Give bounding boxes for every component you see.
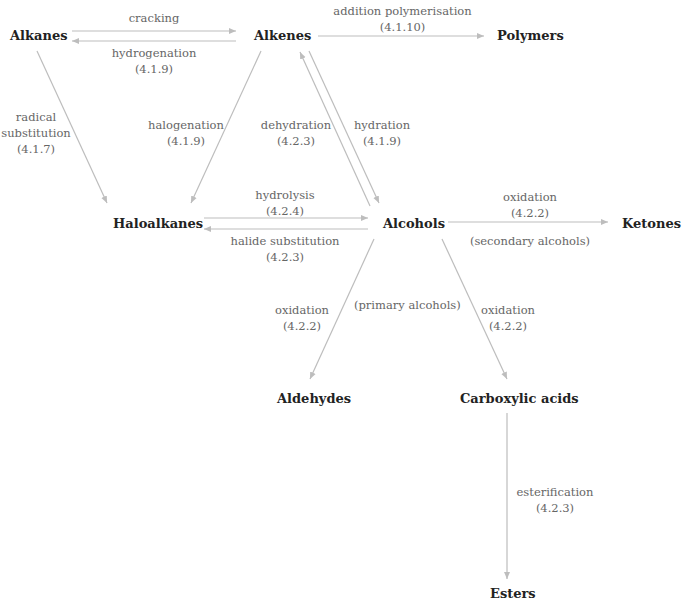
node-alkanes: Alkanes xyxy=(10,28,68,44)
label-halogenation: halogenation (4.1.9) xyxy=(146,117,226,149)
label-oxidation-ketones: oxidation (4.2.2) xyxy=(490,189,570,221)
node-alcohols: Alcohols xyxy=(383,216,445,232)
node-haloalkanes: Haloalkanes xyxy=(113,216,203,232)
node-ketones: Ketones xyxy=(622,216,681,232)
label-primary-alcohols: (primary alcohols) xyxy=(354,297,458,313)
node-esters: Esters xyxy=(490,586,536,602)
label-hydration: hydration (4.1.9) xyxy=(350,117,414,149)
label-secondary-alcohols: (secondary alcohols) xyxy=(465,233,595,249)
node-polymers: Polymers xyxy=(497,28,564,44)
label-addition-polymerisation: addition polymerisation (4.1.10) xyxy=(330,3,475,35)
label-radical-substitution: radical substitution (4.1.7) xyxy=(0,109,72,157)
label-dehydration: dehydration (4.2.3) xyxy=(258,117,334,149)
label-hydrogenation: hydrogenation (4.1.9) xyxy=(104,45,204,77)
label-hydrolysis: hydrolysis (4.2.4) xyxy=(240,187,330,219)
label-cracking: cracking xyxy=(104,10,204,26)
node-carboxylic-acids: Carboxylic acids xyxy=(460,391,579,407)
label-halide-substitution: halide substitution (4.2.3) xyxy=(230,233,340,265)
label-oxidation-aldehydes: oxidation (4.2.2) xyxy=(270,302,334,334)
label-esterification: esterification (4.2.3) xyxy=(510,484,600,516)
node-aldehydes: Aldehydes xyxy=(277,391,351,407)
label-oxidation-acids: oxidation (4.2.2) xyxy=(476,302,540,334)
node-alkenes: Alkenes xyxy=(254,28,311,44)
